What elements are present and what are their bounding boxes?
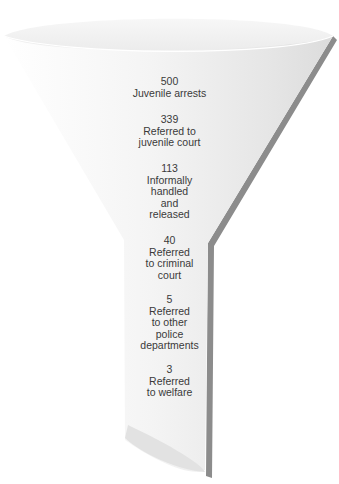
stage-label: to welfare bbox=[0, 387, 339, 399]
stage-count: 339 bbox=[0, 114, 339, 126]
funnel-labels: 500 Juvenile arrests 339 Referred to juv… bbox=[0, 0, 339, 484]
stage-count: 113 bbox=[0, 163, 339, 175]
stage-count: 3 bbox=[0, 364, 339, 376]
stage-juvenile-arrests: 500 Juvenile arrests bbox=[0, 76, 339, 99]
stage-label: Juvenile arrests bbox=[0, 88, 339, 100]
stage-count: 5 bbox=[0, 294, 339, 306]
stage-count: 40 bbox=[0, 235, 339, 247]
stage-label: to criminal bbox=[0, 258, 339, 270]
stage-referred-welfare: 3 Referred to welfare bbox=[0, 364, 339, 399]
stage-count: 500 bbox=[0, 76, 339, 88]
stage-referred-juvenile-court: 339 Referred to juvenile court bbox=[0, 114, 339, 149]
stage-label: released bbox=[0, 209, 339, 221]
stage-label: juvenile court bbox=[0, 137, 339, 149]
stage-referred-criminal-court: 40 Referred to criminal court bbox=[0, 235, 339, 281]
stage-referred-other-police: 5 Referred to other police departments bbox=[0, 294, 339, 352]
stage-informally-handled: 113 Informally handled and released bbox=[0, 163, 339, 221]
stage-label: to other bbox=[0, 317, 339, 329]
stage-label: departments bbox=[0, 340, 339, 352]
stage-label: court bbox=[0, 270, 339, 282]
stage-label: handled bbox=[0, 186, 339, 198]
